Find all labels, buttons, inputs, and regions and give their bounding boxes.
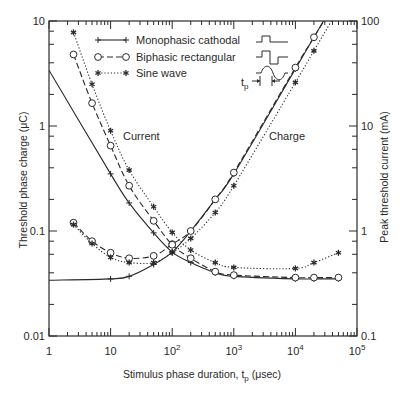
y-axis-label-right: Peak threshold current (mA): [378, 111, 390, 242]
waveform-insets: [256, 36, 288, 80]
legend-label: Sine wave: [136, 67, 187, 79]
y-tick-label-right: 1: [361, 225, 367, 237]
legend-label: Monophasic cathodal: [136, 34, 240, 46]
y-tick-label-right: 10: [361, 120, 373, 132]
x-tick-label: 104: [287, 343, 304, 357]
x-tick-label: 103: [225, 343, 242, 357]
x-tick-label: 10: [104, 345, 116, 357]
x-tick-label: 105: [349, 343, 366, 357]
y-tick-label-left: 10: [33, 15, 45, 27]
legend-item: Monophasic cathodal: [95, 34, 240, 46]
charge-label: Charge: [269, 130, 305, 142]
x-axis-label: Stimulus phase duration, tp (μsec): [123, 368, 281, 383]
legend-item: Biphasic rectangular: [95, 51, 236, 63]
axes: 1101021031041050.010.11100.1110100: [24, 15, 380, 357]
chart: 1101021031041050.010.11100.1110100 Monop…: [0, 0, 403, 395]
y-tick-label-left: 1: [39, 120, 45, 132]
legend-label: Biphasic rectangular: [136, 51, 236, 63]
y-tick-label-left: 0.01: [24, 330, 45, 342]
legend-item: Sine wave: [95, 67, 186, 79]
y-tick-label-right: 100: [361, 15, 379, 27]
y-tick-label-right: 0.1: [361, 330, 376, 342]
plot-frame: [49, 21, 357, 336]
x-tick-label: 102: [164, 343, 181, 357]
tp-indicator: tp: [241, 76, 280, 91]
annotations: Current Charge: [123, 130, 305, 142]
series-sine-wave-current: [71, 29, 341, 271]
current-label: Current: [123, 130, 160, 142]
series-biphasic-rectangular-current: [70, 51, 342, 281]
x-tick-label: 1: [46, 345, 52, 357]
y-tick-label-left: 0.1: [30, 225, 45, 237]
y-axis-label-left: Threshold phase charge (μC): [17, 112, 29, 249]
svg-text:tp: tp: [241, 76, 249, 91]
legend: Monophasic cathodalBiphasic rectangularS…: [95, 34, 288, 91]
